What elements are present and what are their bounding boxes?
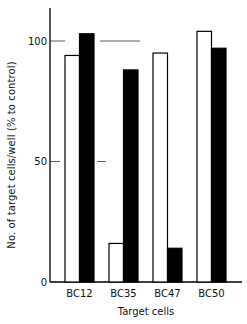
x-tick-label: BC35 [110,288,136,299]
bar-bc35-open [109,243,124,282]
bar-bc47-filled [168,248,183,282]
bar-bc12-filled [80,34,95,282]
y-tick-label: 100 [28,36,47,47]
y-tick-label: 0 [41,277,47,288]
bar-bc47-open [153,53,168,282]
bar-bc12-open [65,55,80,282]
y-axis-label: No. of target cells/well (% to control) [6,61,17,248]
bar-chart: 050100BC12BC35BC47BC50 No. of target cel… [0,0,247,324]
bar-bc50-filled [212,48,227,282]
x-axis-label: Target cells [118,306,175,317]
x-tick-label: BC12 [66,288,92,299]
y-tick-label: 50 [34,156,47,167]
chart-canvas: 050100BC12BC35BC47BC50 [0,0,247,324]
x-tick-label: BC47 [154,288,180,299]
x-tick-label: BC50 [198,288,224,299]
bar-bc50-open [197,31,212,282]
bar-bc35-filled [124,70,139,282]
